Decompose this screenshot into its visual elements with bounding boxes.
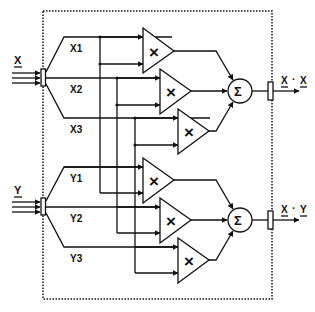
y-splitter [41,198,46,215]
sigma-icon: Σ [234,84,242,99]
svg-text:·: · [292,74,295,85]
svg-text:X: X [300,75,307,86]
multiplier-x1-x1: × [143,28,174,73]
multiply-icon: × [166,212,176,231]
x-input: X [12,54,46,86]
multiplier-y2-x2: × [160,198,191,243]
output-label-xx: X · X [281,74,307,87]
x1-label: X1 [70,43,83,54]
multiplier-x2-x2: × [160,69,191,114]
multiply-icon: × [149,172,159,191]
output-port-xx [268,82,273,100]
dot-product-diagram: X X1 X2 X3 Y Y1 Y2 Y3 [0,0,315,312]
svg-text:X: X [281,75,288,86]
x3-label: X3 [70,124,83,135]
multiply-icon: × [149,43,159,62]
output-port-xy [268,211,273,229]
svg-text:Y: Y [300,204,307,215]
multiply-icon: × [184,123,194,142]
sum-node-xx: Σ [228,79,252,103]
x2-label: X2 [70,84,83,95]
svg-text:X: X [281,204,288,215]
y-input: Y [12,184,46,215]
sum-node-xy: Σ [228,208,252,232]
x-input-label: X [14,54,22,66]
svg-text:·: · [292,203,295,214]
x-splitter [41,69,46,86]
multiply-icon: × [166,83,176,102]
multiplier-y3-x3: × [178,238,209,283]
y1-label: Y1 [70,173,83,184]
multiplier-x3-x3: × [178,109,209,154]
multiplier-y1-x1: × [143,158,174,203]
output-label-xy: X · Y [281,203,307,216]
y3-label: Y3 [70,253,83,264]
y2-label: Y2 [70,213,83,224]
y-input-label: Y [14,184,22,196]
multiply-icon: × [184,252,194,271]
sigma-icon: Σ [234,213,242,228]
